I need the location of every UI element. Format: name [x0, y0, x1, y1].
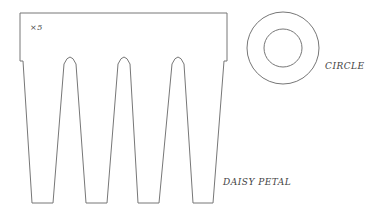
daisy-petal-shape: [20, 13, 227, 203]
circle-label: CIRCLE: [325, 61, 365, 71]
inner-circle: [264, 29, 302, 67]
diagram-canvas: [0, 0, 384, 214]
multiplier-label: ×5: [30, 23, 43, 32]
outer-circle: [247, 12, 319, 84]
petal-label: DAISY PETAL: [223, 177, 291, 187]
